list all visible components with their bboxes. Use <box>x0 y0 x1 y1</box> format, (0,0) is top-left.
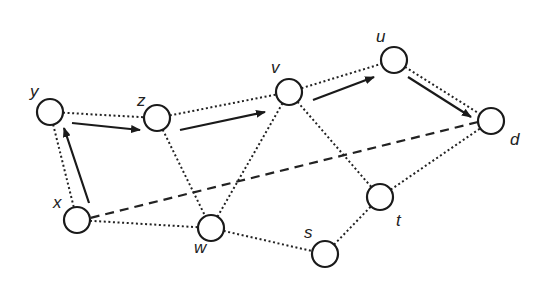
node-u <box>381 47 407 73</box>
edge-v-t <box>298 102 372 187</box>
edge-v-u <box>301 64 381 88</box>
node-label-v: v <box>271 58 281 77</box>
edge-t-d <box>391 128 481 189</box>
arrow-x-to-y <box>64 128 89 203</box>
nodes <box>37 47 504 267</box>
arrow-z-to-v <box>180 112 265 130</box>
node-v <box>276 79 302 105</box>
edge-y-z <box>63 113 144 118</box>
dashed-edge-d-x <box>90 122 478 218</box>
dotted-edges <box>53 64 480 251</box>
node-label-y: y <box>29 82 40 101</box>
node-x <box>64 207 90 233</box>
node-y <box>37 99 63 125</box>
node-d <box>478 108 504 134</box>
node-label-u: u <box>376 27 386 46</box>
arrow-v-to-u <box>313 77 374 100</box>
arrow-u-to-d <box>408 77 471 117</box>
node-label-d: d <box>510 130 520 149</box>
node-label-w: w <box>194 238 208 257</box>
edge-x-w <box>90 221 198 227</box>
node-label-x: x <box>52 193 62 212</box>
node-label-s: s <box>304 223 313 242</box>
edge-z-w <box>163 130 206 217</box>
node-label-z: z <box>136 91 146 110</box>
dashed-edges <box>90 122 478 218</box>
edge-u-d <box>405 67 480 114</box>
path-arrows <box>64 77 471 203</box>
edge-w-s <box>224 231 313 251</box>
node-label-t: t <box>396 211 402 230</box>
node-t <box>367 184 393 210</box>
node-s <box>312 241 338 267</box>
node-z <box>144 105 170 131</box>
edge-s-t <box>334 206 371 244</box>
network-diagram: yzvudxwst <box>0 0 543 290</box>
arrow-y-to-z <box>72 123 140 130</box>
node-labels: yzvudxwst <box>29 27 520 257</box>
